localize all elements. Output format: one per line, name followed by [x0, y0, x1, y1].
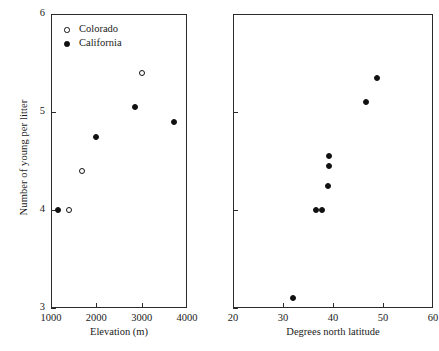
data-point-california [55, 207, 61, 213]
y-axis-title: Number of young per litter [18, 43, 29, 273]
x-axis-title-right: Degrees north latitude [233, 326, 433, 337]
x-tick-40 [333, 303, 334, 308]
data-point-california [132, 104, 138, 110]
x-tick-50 [383, 303, 384, 308]
legend-item-colorado: Colorado [62, 22, 122, 36]
plot-frame-right [233, 14, 433, 308]
figure-scatter-plots: Number of young per litter Colorado Cali… [0, 0, 439, 351]
data-point-california [93, 134, 99, 140]
x-tick-label-40: 40 [309, 312, 357, 323]
y-tick-6 [51, 14, 56, 15]
y-tick-label-5: 5 [19, 105, 45, 116]
data-point-colorado [139, 70, 145, 76]
x-tick-label-50: 50 [359, 312, 407, 323]
y-tick-4 [233, 210, 238, 211]
x-tick-30 [283, 303, 284, 308]
y-tick-label-6: 6 [19, 7, 45, 18]
x-tick-label-30: 30 [259, 312, 307, 323]
y-tick-6 [233, 14, 238, 15]
legend-label-colorado: Colorado [79, 23, 118, 34]
x-tick-label-2000: 2000 [72, 312, 120, 323]
x-axis-title-left: Elevation (m) [51, 326, 187, 337]
legend-label-california: California [79, 37, 122, 48]
data-point-all-sites [319, 207, 325, 213]
x-tick-3000 [142, 303, 143, 308]
y-tick-3 [233, 308, 238, 309]
y-tick-label-4: 4 [19, 203, 45, 214]
x-tick-label-4000: 4000 [163, 312, 211, 323]
x-tick-2000 [96, 303, 97, 308]
data-point-all-sites [326, 163, 332, 169]
legend-item-california: California [62, 36, 122, 50]
y-tick-5 [51, 112, 56, 113]
y-tick-5 [233, 112, 238, 113]
data-point-colorado [79, 168, 85, 174]
data-point-all-sites [374, 75, 380, 81]
y-tick-3 [51, 308, 56, 309]
data-point-all-sites [325, 183, 331, 189]
x-tick-label-1000: 1000 [27, 312, 75, 323]
legend: Colorado California [62, 22, 122, 50]
plot-frame-left [51, 14, 187, 308]
filled-circle-icon [64, 41, 70, 47]
open-circle-icon [64, 27, 70, 33]
x-tick-label-60: 60 [409, 312, 439, 323]
x-tick-label-20: 20 [209, 312, 257, 323]
x-tick-label-3000: 3000 [118, 312, 166, 323]
y-tick-label-3: 3 [19, 301, 45, 312]
